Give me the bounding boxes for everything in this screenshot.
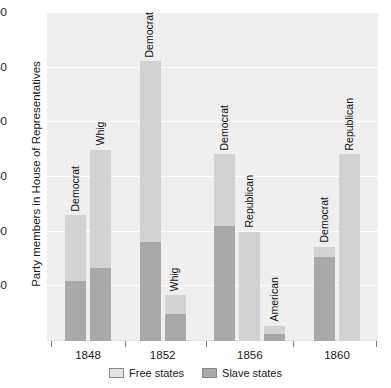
legend-swatch-slave-states: [202, 368, 217, 378]
gridline-250: [47, 67, 378, 68]
x-tick-label-1848: 1848: [58, 349, 118, 361]
y-tick-label-300: 300: [0, 7, 7, 19]
x-tick-mark-2: [293, 341, 294, 347]
bar-label-1860-republican: Republican: [343, 98, 354, 151]
bar-label-1856-american: American: [268, 277, 279, 321]
y-axis-title: Party members in House of Representative…: [30, 34, 42, 314]
x-tick-mark-1: [206, 341, 207, 347]
bar-1856-democrat: [214, 154, 235, 341]
bar-segment-slave-states: [90, 268, 111, 341]
legend-item-slave-states: Slave states: [202, 367, 282, 379]
bar-1856-american: [264, 326, 285, 341]
legend-swatch-free-states: [109, 368, 124, 378]
x-tick-label-1856: 1856: [220, 349, 280, 361]
bar-segment-slave-states: [65, 281, 86, 341]
bar-label-1860-democrat: Democrat: [318, 197, 329, 243]
bar-segment-slave-states: [214, 226, 235, 341]
bar-segment-slave-states: [140, 242, 161, 341]
bar-label-1848-democrat: Democrat: [69, 166, 80, 212]
bar-segment-free-states: [90, 150, 111, 268]
bar-label-1856-republican: Republican: [243, 175, 254, 228]
bar-segment-free-states: [239, 232, 260, 341]
bar-segment-free-states: [65, 215, 86, 281]
y-tick-label-250: 250: [0, 62, 7, 74]
bar-segment-free-states: [140, 61, 161, 241]
bar-1856-republican: [239, 232, 260, 341]
bar-1860-democrat: [314, 247, 335, 341]
bar-segment-free-states: [165, 295, 186, 314]
legend-label-slave-states: Slave states: [222, 367, 282, 379]
bar-1852-whig: [165, 295, 186, 341]
bar-label-1848-whig: Whig: [94, 122, 105, 146]
x-tick-mark-edge-0: [51, 341, 52, 347]
y-tick-label-50: 50: [0, 280, 7, 292]
bar-1852-democrat: [140, 61, 161, 341]
x-tick-label-1860: 1860: [307, 349, 367, 361]
bar-segment-free-states: [314, 247, 335, 257]
y-tick-label-200: 200: [0, 116, 7, 128]
legend-label-free-states: Free states: [129, 367, 184, 379]
legend-item-free-states: Free states: [109, 367, 184, 379]
x-tick-mark-0: [125, 341, 126, 347]
bar-label-1856-democrat: Democrat: [218, 105, 229, 151]
chart-container: Party members in House of Representative…: [0, 0, 391, 388]
bar-label-1852-democrat: Democrat: [144, 12, 155, 58]
y-tick-label-100: 100: [0, 226, 7, 238]
plot-area: DemocratWhigDemocratWhigDemocratRepublic…: [47, 13, 378, 341]
bar-segment-slave-states: [165, 314, 186, 341]
bar-label-1852-whig: Whig: [169, 267, 180, 291]
x-tick-mark-edge-1: [376, 341, 377, 347]
bar-1860-republican: [339, 154, 360, 341]
bar-segment-free-states: [214, 154, 235, 226]
legend: Free states Slave states: [0, 367, 391, 379]
gridline-300: [47, 12, 378, 13]
bar-segment-slave-states: [314, 257, 335, 341]
x-tick-label-1852: 1852: [133, 349, 193, 361]
bar-segment-slave-states: [264, 334, 285, 341]
bar-1848-democrat: [65, 215, 86, 341]
y-tick-label-150: 150: [0, 171, 7, 183]
bar-segment-free-states: [264, 326, 285, 335]
bar-segment-free-states: [339, 154, 360, 341]
bar-1848-whig: [90, 150, 111, 341]
